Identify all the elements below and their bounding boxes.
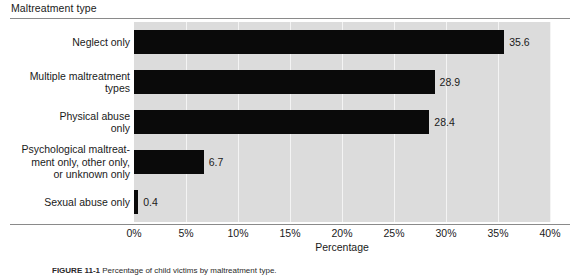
x-tick-label: 15%: [279, 227, 300, 239]
x-tick-label: 25%: [383, 227, 404, 239]
bar: [134, 30, 504, 54]
category-label-line: Neglect only: [6, 36, 130, 48]
figure-caption: FIGURE 11-1 Percentage of child victims …: [52, 266, 562, 277]
x-tick-label: 10%: [227, 227, 248, 239]
category-label-line: types: [6, 82, 130, 94]
x-axis-line: [10, 224, 570, 225]
bar-row: 35.6: [134, 30, 550, 54]
bar-row: 6.7: [134, 150, 550, 174]
x-axis-title: Percentage: [134, 241, 550, 253]
figure-container: Maltreatment type 35.628.928.46.70.4 Neg…: [0, 0, 576, 277]
category-label-line: Physical abuse: [6, 110, 130, 122]
category-label: Neglect only: [6, 36, 130, 48]
bar-row: 28.4: [134, 110, 550, 134]
category-label: Multiple maltreatmenttypes: [6, 70, 130, 95]
category-axis-labels: Neglect onlyMultiple maltreatmenttypesPh…: [4, 22, 130, 222]
bar: [134, 70, 435, 94]
bar-value-label: 28.9: [435, 76, 460, 88]
category-label: Sexual abuse only: [6, 196, 130, 208]
bar-value-label: 28.4: [429, 116, 454, 128]
bar-value-label: 6.7: [204, 156, 224, 168]
plot-area: 35.628.928.46.70.4: [134, 22, 550, 222]
caption-text: Percentage of child victims by maltreatm…: [102, 266, 276, 275]
bar-row: 28.9: [134, 70, 550, 94]
page-title: Maltreatment type: [11, 2, 97, 14]
category-label-line: or unknown only: [6, 168, 130, 180]
title-divider: [10, 18, 570, 19]
category-label-line: Multiple maltreatment: [6, 70, 130, 82]
category-label-line: ment only, other only,: [6, 156, 130, 168]
x-axis-ticks: 0%5%10%15%20%25%30%35%40%: [134, 227, 550, 241]
x-tick-label: 30%: [435, 227, 456, 239]
x-tick-label: 0%: [126, 227, 141, 239]
category-label-line: Sexual abuse only: [6, 196, 130, 208]
bar: [134, 150, 204, 174]
x-tick-label: 20%: [331, 227, 352, 239]
x-tick-label: 40%: [539, 227, 560, 239]
bar: [134, 110, 429, 134]
category-label: Physical abuseonly: [6, 110, 130, 135]
category-label-line: only: [6, 122, 130, 134]
x-tick-label: 35%: [487, 227, 508, 239]
caption-number: FIGURE 11-1: [52, 266, 100, 275]
bar-value-label: 0.4: [138, 196, 158, 208]
category-label-line: Psychological maltreat-: [6, 143, 130, 155]
category-label: Psychological maltreat-ment only, other …: [6, 143, 130, 180]
gridline: [550, 22, 551, 222]
x-tick-label: 5%: [178, 227, 193, 239]
bar-row: 0.4: [134, 190, 550, 214]
bar-value-label: 35.6: [504, 36, 529, 48]
